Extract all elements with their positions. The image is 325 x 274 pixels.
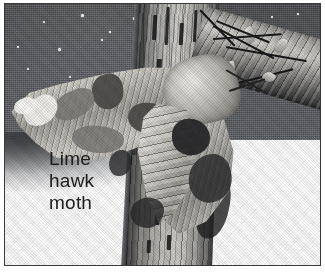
moth-dark-marking bbox=[109, 150, 131, 176]
caption-line-3: moth bbox=[49, 192, 94, 214]
caption-block: Lime hawk moth bbox=[49, 148, 94, 215]
illustration-frame: Lime hawk moth bbox=[4, 3, 321, 266]
lime-hawk-moth bbox=[5, 4, 320, 265]
illustration-figure: Lime hawk moth bbox=[0, 0, 325, 274]
caption-line-1: Lime bbox=[49, 148, 94, 170]
caption-line-2: hawk bbox=[49, 170, 94, 192]
moth-antenna bbox=[216, 20, 269, 43]
illustration-scene: Lime hawk moth bbox=[5, 4, 320, 265]
moth-dark-marking bbox=[172, 119, 210, 156]
